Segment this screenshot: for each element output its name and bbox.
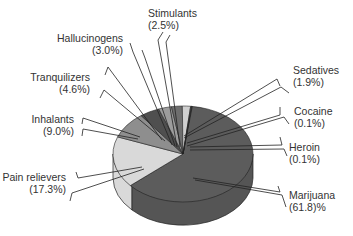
label-name: Stimulants xyxy=(148,7,197,19)
label-tranquilizers: Tranquilizers (4.6%) xyxy=(20,71,90,95)
label-sedatives: Sedatives (1.9%) xyxy=(293,64,339,88)
label-pct: (3.0%) xyxy=(53,44,123,56)
label-name: Pain relievers xyxy=(0,171,66,183)
label-heroin: Heroin (0.1%) xyxy=(289,141,320,165)
label-pct: (61.8)% xyxy=(289,201,335,213)
label-pct: (4.6%) xyxy=(20,83,90,95)
label-name: Cocaine xyxy=(294,105,333,117)
label-name: Hallucinogens xyxy=(53,32,123,44)
label-name: Heroin xyxy=(289,141,320,153)
label-pct: (9.0%) xyxy=(12,125,74,137)
label-name: Tranquilizers xyxy=(20,71,90,83)
pie-slices xyxy=(113,106,253,202)
label-name: Inhalants xyxy=(12,113,74,125)
label-pct: (0.1%) xyxy=(294,117,333,129)
label-pct: (2.5%) xyxy=(148,19,197,31)
label-name: Sedatives xyxy=(293,64,339,76)
label-hallucinogens: Hallucinogens (3.0%) xyxy=(53,32,123,56)
label-marijuana: Marijuana (61.8)% xyxy=(289,189,335,213)
label-pain-relievers: Pain relievers (17.3%) xyxy=(0,171,66,195)
label-stimulants: Stimulants (2.5%) xyxy=(148,7,197,31)
label-pct: (1.9%) xyxy=(293,76,339,88)
label-inhalants: Inhalants (9.0%) xyxy=(12,113,74,137)
label-pct: (0.1%) xyxy=(289,153,320,165)
label-cocaine: Cocaine (0.1%) xyxy=(294,105,333,129)
label-pct: (17.3%) xyxy=(0,183,66,195)
label-name: Marijuana xyxy=(289,189,335,201)
